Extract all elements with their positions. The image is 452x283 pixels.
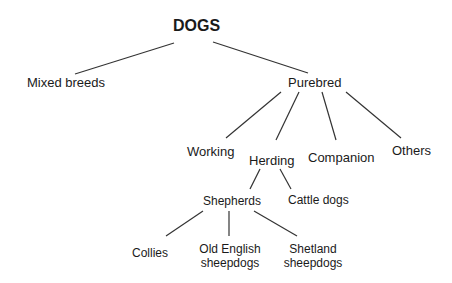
node-companion: Companion — [308, 151, 375, 165]
node-herding: Herding — [249, 154, 295, 168]
edge-purebred-working — [226, 92, 281, 138]
node-label-line1: Old English — [198, 242, 262, 256]
node-label-line2: sheepdogs — [282, 256, 344, 270]
node-mixed-breeds: Mixed breeds — [27, 76, 105, 90]
node-dogs: DOGS — [173, 17, 220, 35]
edge-dogs-mixed — [75, 43, 174, 74]
edge-herding-shepherds — [250, 169, 260, 189]
node-label-line2: sheepdogs — [198, 256, 262, 270]
node-collies: Collies — [132, 246, 168, 260]
node-shepherds: Shepherds — [203, 194, 261, 208]
dog-classification-tree: DOGS Mixed breeds Purebred Working Herdi… — [0, 0, 452, 283]
edge-shepherds-collies — [166, 211, 203, 236]
tree-edges — [0, 0, 452, 283]
node-label-line1: Shetland — [282, 242, 344, 256]
node-working: Working — [187, 145, 234, 159]
node-shetland-sheepdogs: Shetland sheepdogs — [282, 242, 344, 270]
edge-shepherds-shetland — [254, 211, 297, 236]
node-old-english-sheepdogs: Old English sheepdogs — [198, 242, 262, 270]
node-others: Others — [392, 144, 431, 158]
edge-herding-cattle — [280, 169, 291, 189]
node-purebred: Purebred — [288, 76, 341, 90]
edge-dogs-purebred — [213, 42, 308, 73]
node-cattle-dogs: Cattle dogs — [288, 193, 349, 207]
edge-purebred-companion — [322, 92, 336, 140]
edge-purebred-others — [346, 92, 401, 138]
edge-purebred-herding — [276, 92, 299, 140]
